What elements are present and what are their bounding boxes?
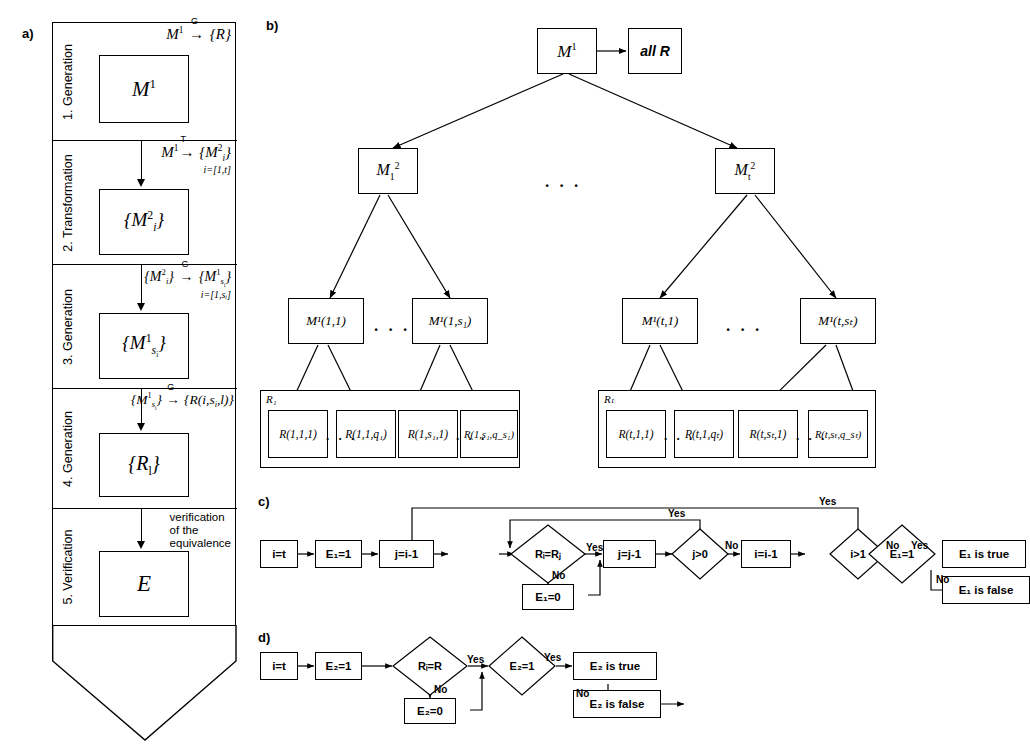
panel-a-stage-5: 5. Verification verification of the equi… — [53, 509, 237, 625]
c-node-j-init: j=i-1 — [379, 540, 434, 568]
d-label-e2chk-yes: Yes — [544, 652, 561, 663]
flow-arrow-4-5 — [137, 541, 145, 549]
node-mt-2: Mt2 — [715, 148, 775, 194]
flow-line-1-2 — [141, 141, 142, 181]
verification-note: verification of the equivalence — [170, 511, 231, 550]
c-label-e1chk-no: No — [936, 574, 949, 585]
d-label-cmp-yes: Yes — [467, 654, 484, 665]
panel-b-level2-ellipsis: . . . — [545, 172, 581, 192]
d-node-e2-check: E₂=1 — [488, 636, 556, 696]
box-r-t-st-1: R(t,sₜ,1) — [738, 410, 798, 458]
flow-arrow-1-2 — [137, 179, 145, 187]
flow-line-2-3 — [141, 265, 142, 305]
panel-a-label: a) — [22, 26, 34, 41]
stage-box-2: {M2i} — [99, 189, 189, 255]
stage-box-5: E — [99, 551, 189, 617]
panel-d-edges — [252, 634, 915, 738]
c-node-e1-check: E₁=1 — [868, 524, 936, 584]
group-r1-label: R₁ — [266, 393, 277, 405]
stage-formula-2: M1 T→ {M2i} i=[1,t] — [161, 143, 231, 175]
c-node-i-dec: i=i-1 — [741, 540, 791, 568]
stage-label-3: 3. Generation — [55, 265, 81, 388]
stage-label-2: 2. Transformation — [55, 141, 81, 264]
d-node-e2-zero: E₂=0 — [404, 698, 456, 724]
c-label-igt1-no: No — [886, 540, 899, 551]
d-label-e2chk-no: No — [576, 688, 589, 699]
flow-arrow-3-4 — [137, 423, 145, 431]
stage-label-4: 4. Generation — [55, 389, 81, 508]
group-r1-ellipsis-b: . . . — [456, 428, 487, 444]
node-m1-1-s1: M¹(1,s₁) — [412, 298, 488, 344]
c-node-cmp: Rᵢ=Rⱼ — [510, 524, 586, 584]
c-label-cmp-yes: Yes — [586, 542, 603, 553]
panel-d: i=t E₂=1 Rᵢ=R E₂=0 E₂=1 E₂ is true E₂ is… — [252, 634, 915, 738]
panel-a-stage-1: 1. Generation M1 G→ {R} M1 — [53, 23, 237, 141]
c-node-j-gt-0: j>0 — [671, 528, 729, 580]
flow-line-3-4 — [141, 389, 142, 425]
flow-line-4-5 — [141, 509, 142, 543]
panel-b-level3-ellipsis-left: . . . — [374, 316, 410, 336]
d-label-cmp-no: No — [434, 684, 447, 695]
d-node-e2-init: E₂=1 — [315, 652, 362, 680]
panel-a-arrow-point — [52, 625, 238, 741]
node-m1-t-st: M¹(t,sₜ) — [800, 298, 876, 344]
node-m1-1-1: M¹(1,1) — [288, 298, 364, 344]
panel-a-stage-3: 3. Generation {M2i} G→ {M1si} i=[1,sᵢ] {… — [53, 265, 237, 389]
group-rt-ellipsis-a: . . . — [664, 428, 695, 444]
c-node-start: i=t — [260, 540, 298, 568]
c-label-cmp-no: No — [552, 570, 565, 581]
stage-formula-3: {M2i} G→ {M1si} i=[1,sᵢ] — [144, 267, 231, 300]
c-label-igt1-yes: Yes — [819, 496, 836, 507]
c-node-j-dec: j=j-1 — [603, 540, 656, 568]
c-label-jgt0-no: No — [725, 540, 738, 551]
stage-formula-4: {M1si} G→ {R(i,si,l)} — [131, 391, 234, 411]
stage-box-3: {M1si} — [99, 313, 189, 379]
c-label-e1chk-yes: Yes — [911, 540, 928, 551]
stage-box-1: M1 — [99, 55, 189, 123]
box-r-1-1-1: R(1,1,1) — [268, 410, 328, 458]
c-node-e1-init: E₁=1 — [315, 540, 362, 568]
d-node-true: E₂ is true — [573, 652, 657, 680]
stage-formula-1: M1 G→ {R} — [166, 25, 231, 43]
panel-a-stage-2: 2. Transformation M1 T→ {M2i} i=[1,t] {M… — [53, 141, 237, 265]
d-node-start: i=t — [260, 652, 298, 680]
node-m1-t-1: M¹(t,1) — [622, 298, 698, 344]
group-rt-label: Rₜ — [604, 393, 614, 406]
panel-a-body: 1. Generation M1 G→ {R} M1 2. Transforma… — [52, 22, 236, 626]
panel-c: i=t E₁=1 j=i-1 Rᵢ=Rⱼ E₁=0 j=j-1 j>0 i=i-… — [252, 498, 915, 608]
node-m1-2: M12 — [358, 148, 418, 194]
stage-box-4: {Rl} — [99, 433, 189, 497]
stage-label-5: 5. Verification — [55, 509, 81, 625]
panel-a-stage-4: 4. Generation {M1si} G→ {R(i,si,l)} {Rl} — [53, 389, 237, 509]
stage-label-1: 1. Generation — [55, 23, 81, 140]
box-r-t-1-1: R(t,1,1) — [606, 410, 666, 458]
group-rt-ellipsis-b: . . . — [796, 428, 827, 444]
box-r-1-s1-1: R(1,s₁,1) — [398, 410, 458, 458]
panel-a: 1. Generation M1 G→ {R} M1 2. Transforma… — [52, 22, 238, 722]
c-node-true: E₁ is true — [942, 540, 1026, 568]
c-node-false: E₁ is false — [942, 576, 1030, 604]
panel-b-level3-ellipsis-right: . . . — [726, 316, 762, 336]
c-label-jgt0-yes: Yes — [668, 508, 685, 519]
flow-arrow-2-3 — [137, 303, 145, 311]
d-node-cmp: Rᵢ=R — [392, 636, 468, 696]
group-r1-ellipsis-a: . . . — [326, 428, 357, 444]
stage-formula-3-sub: i=[1,sᵢ] — [144, 289, 231, 300]
c-node-e1-zero: E₁=0 — [522, 584, 574, 610]
stage-formula-2-sub: i=[1,t] — [161, 164, 231, 175]
panel-b: M1 all R M12 Mt2 — [260, 20, 915, 480]
